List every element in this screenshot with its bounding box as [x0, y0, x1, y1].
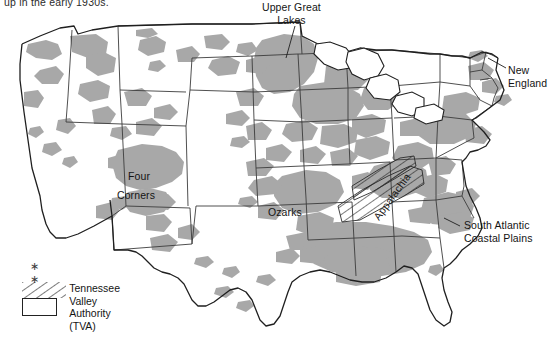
map-label-new-england: New England [508, 64, 547, 89]
legend-label-tva: Tennessee Valley Authority (TVA) [69, 282, 131, 332]
map-label-ozarks: Ozarks [268, 206, 302, 219]
map-label-four-corners-line1: Four [117, 170, 155, 183]
map-label-new-england-line1: New [508, 64, 547, 77]
map-label-new-england-line2: England [508, 77, 547, 90]
map-label-south-atlantic-coastal-plains: South Atlantic Coastal Plains [464, 219, 533, 244]
map-label-south-atlantic-line1: South Atlantic [464, 219, 533, 232]
map-label-upper-great-lakes: Upper Great Lakes [262, 1, 321, 26]
thematic-map-figure: up in the early 1930s. [0, 0, 556, 339]
legend-label-tva-line1: Tennessee Valley [69, 282, 131, 307]
map-label-south-atlantic-line2: Coastal Plains [464, 232, 533, 245]
map-label-four-corners-line2: Corners [117, 189, 155, 202]
map-label-four-corners: Four Corners [117, 170, 155, 201]
legend-hatch-pattern [22, 282, 66, 298]
map-label-upper-great-lakes-line2: Lakes [262, 14, 321, 27]
legend-label-tva-line2: Authority (TVA) [69, 307, 131, 332]
shaded-regions-layer [24, 28, 512, 312]
legend-entry-tva: Tennessee Valley Authority (TVA) [22, 282, 131, 332]
map-landmass [20, 22, 512, 326]
legend-swatch-tva-hatch [22, 298, 57, 316]
map-label-upper-great-lakes-line1: Upper Great [262, 1, 321, 14]
